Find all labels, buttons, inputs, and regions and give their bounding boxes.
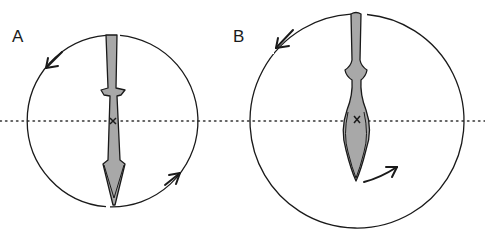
rotation-arrow-a-upper <box>46 52 62 68</box>
rotation-arrow-b-lower <box>364 167 397 182</box>
panel-label-b: B <box>233 27 244 47</box>
panel-label-a: A <box>12 27 23 47</box>
leaf-blade-b <box>343 13 369 182</box>
rotation-arrow-a-lower <box>165 173 180 185</box>
panel-b <box>250 13 464 229</box>
rotation-arrow-b-upper <box>276 30 293 48</box>
